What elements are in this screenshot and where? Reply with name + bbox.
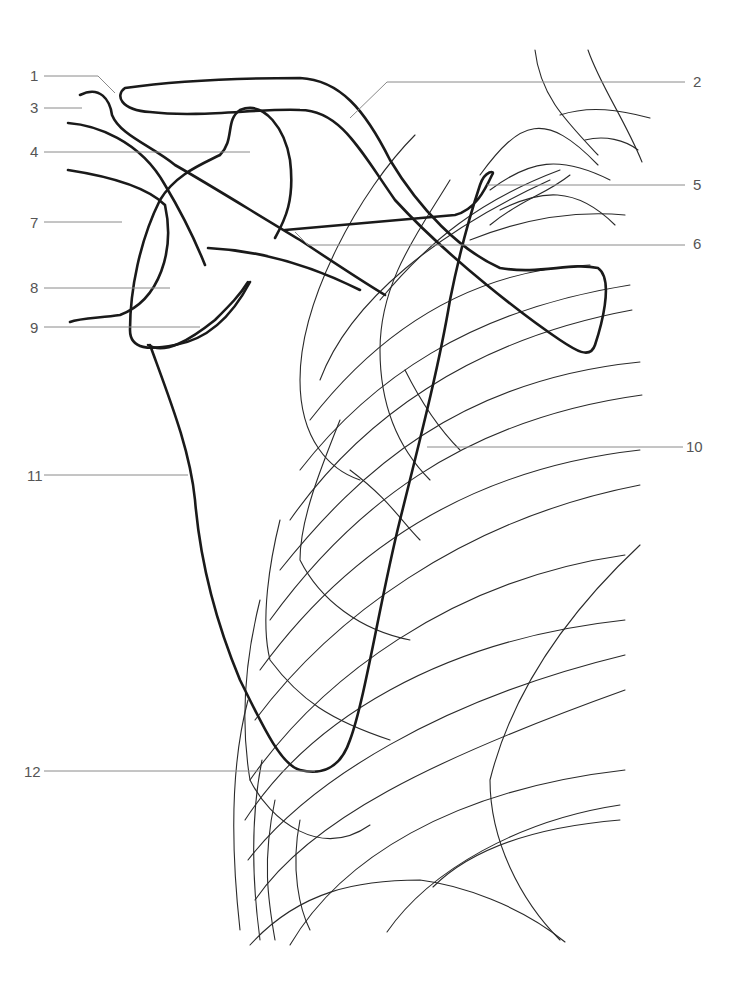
label-3: 3 [30,100,38,115]
label-8: 8 [30,280,38,295]
label-4: 4 [30,144,38,159]
label-1: 1 [30,68,38,83]
label-12: 12 [24,764,41,779]
label-2: 2 [693,74,701,89]
label-6: 6 [693,236,701,251]
leader-lines [44,76,685,771]
ribs [234,50,650,945]
scapula-diagram [0,0,755,1004]
label-7: 7 [30,215,38,230]
label-5: 5 [693,177,701,192]
label-9: 9 [30,320,38,335]
scapula-outline [68,78,606,772]
label-10: 10 [686,439,703,454]
label-11: 11 [27,468,43,483]
